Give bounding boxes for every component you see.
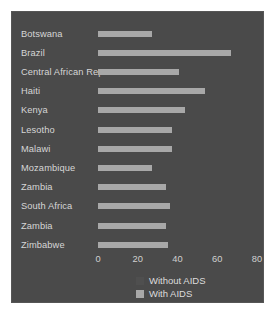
- bar-row: Central African Rep: [12, 62, 263, 81]
- bar: [98, 146, 172, 152]
- chart-legend: Without AIDSWith AIDS: [12, 274, 263, 304]
- legend-label: With AIDS: [149, 287, 192, 300]
- bar: [98, 242, 168, 248]
- category-label: Haiti: [21, 86, 40, 96]
- legend-label: Without AIDS: [149, 274, 206, 287]
- bar-row: Kenya: [12, 101, 263, 120]
- category-label: Central African Rep: [21, 67, 104, 77]
- bar: [98, 88, 205, 94]
- bar: [98, 127, 172, 133]
- bar-track: [98, 197, 257, 216]
- x-axis-tick-label: 80: [252, 254, 262, 264]
- bar-track: [98, 120, 257, 139]
- bar-track: [98, 178, 257, 197]
- bar-track: [98, 62, 257, 81]
- bar-row: Malawi: [12, 139, 263, 158]
- bar-row: Mozambique: [12, 158, 263, 177]
- bar-row: Haiti: [12, 82, 263, 101]
- bar-row: Brazil: [12, 43, 263, 62]
- bar: [98, 107, 185, 113]
- bar-track: [98, 101, 257, 120]
- bar-track: [98, 24, 257, 43]
- bar-track: [98, 158, 257, 177]
- legend-swatch-icon: [136, 277, 144, 285]
- category-label: Zambia: [21, 221, 53, 231]
- category-label: Mozambique: [21, 163, 75, 173]
- bar: [98, 31, 152, 37]
- x-axis-tick-label: 40: [172, 254, 182, 264]
- bar-row: Lesotho: [12, 120, 263, 139]
- x-axis: 020406080: [98, 252, 257, 272]
- bar-row: Botswana: [12, 24, 263, 43]
- category-label: South Africa: [21, 201, 72, 211]
- bar: [98, 203, 170, 209]
- category-label: Kenya: [21, 105, 48, 115]
- chart-figure: BotswanaBrazilCentral African RepHaitiKe…: [11, 11, 264, 303]
- bar-track: [98, 82, 257, 101]
- category-label: Zimbabwe: [21, 240, 65, 250]
- bar: [98, 69, 179, 75]
- category-label: Botswana: [21, 29, 63, 39]
- bar-track: [98, 139, 257, 158]
- x-axis-tick-label: 0: [95, 254, 100, 264]
- x-axis-tick-label: 60: [212, 254, 222, 264]
- category-label: Brazil: [21, 48, 45, 58]
- bar-row: South Africa: [12, 197, 263, 216]
- x-axis-tick-label: 20: [133, 254, 143, 264]
- category-label: Zambia: [21, 182, 53, 192]
- bar: [98, 165, 152, 171]
- category-label: Malawi: [21, 144, 51, 154]
- bar-row: Zambia: [12, 178, 263, 197]
- category-label: Lesotho: [21, 125, 55, 135]
- bar-track: [98, 216, 257, 235]
- bar: [98, 223, 166, 229]
- bar-track: [98, 43, 257, 62]
- bar-row: Zambia: [12, 216, 263, 235]
- bar: [98, 184, 166, 190]
- legend-swatch-icon: [136, 290, 144, 298]
- bar: [98, 50, 231, 56]
